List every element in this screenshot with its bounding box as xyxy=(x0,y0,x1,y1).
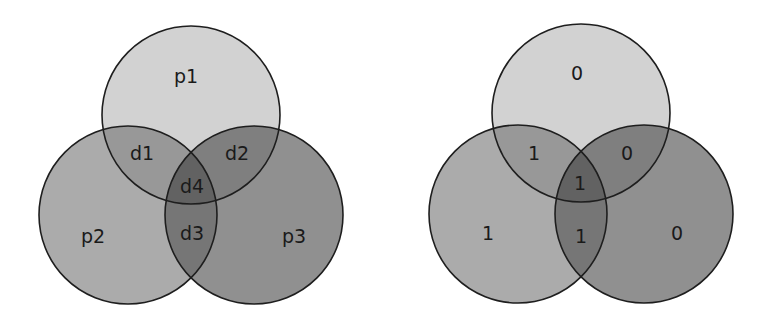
venn-figure: p1 d1 d2 d4 d3 p2 p3 0 1 0 1 1 1 xyxy=(0,0,768,330)
label-d4: d4 xyxy=(180,175,204,197)
value-p2: 1 xyxy=(482,222,494,244)
label-p2: p2 xyxy=(81,225,105,247)
value-p3: 0 xyxy=(671,222,683,244)
label-p3: p3 xyxy=(282,225,306,247)
label-p1: p1 xyxy=(174,65,198,87)
value-d3: 1 xyxy=(575,225,587,247)
value-d4: 1 xyxy=(574,172,586,194)
value-d2: 0 xyxy=(621,142,633,164)
label-d1: d1 xyxy=(130,142,154,164)
value-d1: 1 xyxy=(528,142,540,164)
venn-diagram-labels: p1 d1 d2 d4 d3 p2 p3 xyxy=(39,26,343,304)
venn-diagram-values: 0 1 0 1 1 1 0 xyxy=(429,24,733,303)
label-d2: d2 xyxy=(225,142,249,164)
value-p1: 0 xyxy=(571,62,583,84)
label-d3: d3 xyxy=(180,222,204,244)
